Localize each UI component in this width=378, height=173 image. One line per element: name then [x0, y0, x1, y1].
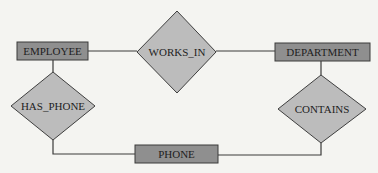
connector-has-phone-phone [53, 140, 135, 154]
relationship-contains-label: CONTAINS [295, 103, 350, 115]
relationship-works-in-label: WORKS_IN [149, 46, 206, 58]
relationship-has-phone[interactable]: HAS_PHONE [11, 72, 95, 140]
er-diagram: EMPLOYEE DEPARTMENT PHONE WORKS_IN HAS_P… [0, 0, 378, 173]
connector-contains-phone [218, 143, 321, 155]
relationship-works-in[interactable]: WORKS_IN [137, 11, 216, 93]
entity-department-label: DEPARTMENT [286, 46, 359, 58]
entity-department[interactable]: DEPARTMENT [275, 43, 370, 61]
entity-phone[interactable]: PHONE [135, 145, 218, 163]
entity-employee-label: EMPLOYEE [23, 45, 82, 57]
relationship-has-phone-label: HAS_PHONE [21, 100, 85, 112]
entity-employee[interactable]: EMPLOYEE [17, 42, 88, 60]
relationship-contains[interactable]: CONTAINS [278, 75, 366, 143]
entity-phone-label: PHONE [158, 148, 195, 160]
